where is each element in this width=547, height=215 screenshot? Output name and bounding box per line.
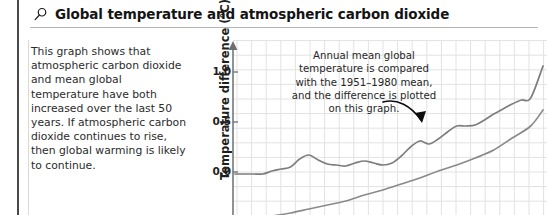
page-header: Global temperature and atmospheric carbo…	[33, 2, 533, 26]
left-light-rail	[28, 40, 29, 215]
screenshot-root: Global temperature and atmospheric carbo…	[0, 0, 547, 215]
magnifier-icon	[33, 7, 48, 22]
page-title: Global temperature and atmospheric carbo…	[55, 6, 449, 22]
y-axis-line	[225, 40, 245, 215]
chart-container: Temperature difference (°C) 1.0 0.5 0.0 …	[193, 40, 547, 215]
left-dark-rail	[17, 0, 19, 215]
annotation-arrow	[381, 96, 451, 136]
intro-paragraph: This graph shows that atmospheric carbon…	[31, 45, 189, 173]
header-divider	[30, 27, 538, 28]
plot-area: Annual mean global temperature is compar…	[233, 40, 547, 215]
